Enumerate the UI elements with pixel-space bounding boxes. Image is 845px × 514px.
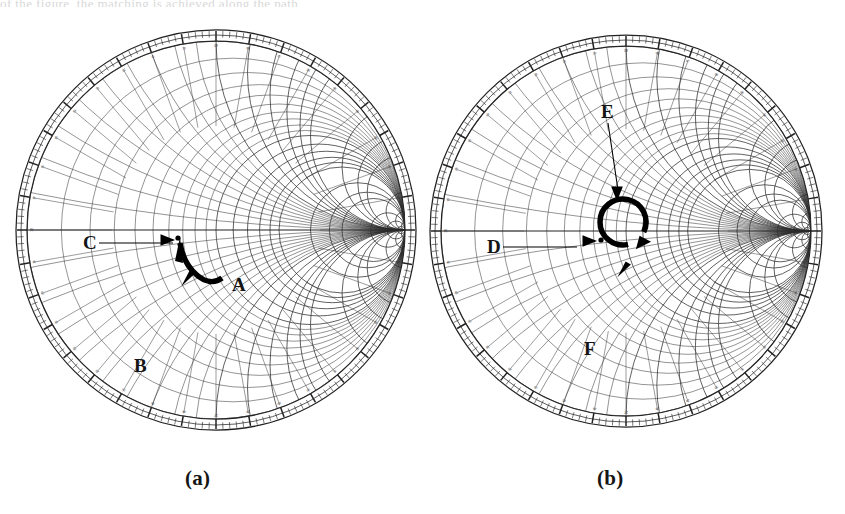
rim-tick-major	[800, 164, 809, 167]
rim-tick-minor	[553, 406, 555, 412]
rim-tick-major	[434, 197, 444, 199]
rim-tick-minor	[585, 40, 586, 46]
label-f: F	[584, 338, 596, 359]
radial-spoke	[447, 199, 526, 213]
radial-spoke	[594, 331, 608, 410]
reactance-arc	[0, 230, 420, 460]
rim-tick-minor	[599, 38, 600, 44]
rim-tick-minor	[579, 414, 581, 420]
radial-spoke	[509, 91, 561, 153]
rim-tick-minor	[27, 169, 33, 171]
label-c: C	[83, 232, 97, 253]
annotations: EDF	[487, 101, 651, 359]
rim-tick-minor	[678, 44, 680, 50]
rim-tick-minor	[168, 37, 170, 43]
rim-tick-minor	[665, 40, 666, 46]
rim-tick-minor	[394, 302, 400, 304]
rim-tick-minor	[606, 37, 607, 43]
rim-tick-minor	[25, 175, 31, 177]
rim-tick-minor	[807, 177, 813, 179]
smith-grid	[0, 0, 420, 460]
rim-tick-minor	[599, 418, 600, 424]
radial-spoke	[123, 69, 164, 140]
reactance-arc	[0, 230, 420, 460]
radial-spoke	[661, 60, 689, 136]
label-e: E	[601, 101, 614, 122]
rim-tick-minor	[585, 415, 586, 421]
rim-tick-minor	[566, 410, 568, 416]
rim-tick-major	[148, 408, 151, 417]
radial-spoke	[704, 296, 766, 348]
rim-tick-major	[249, 416, 251, 426]
reactance-arc	[195, 0, 420, 230]
rim-tick-minor	[809, 277, 815, 279]
reactance-arc	[0, 0, 420, 230]
reactance-arc	[719, 46, 831, 231]
radial-spoke	[314, 266, 391, 294]
rim-tick-minor	[807, 283, 813, 285]
rim-tick-minor	[256, 418, 257, 424]
rim-tick-minor	[579, 42, 581, 48]
rim-tick-minor	[439, 283, 445, 285]
rim-tick-minor	[195, 32, 196, 38]
label-a: A	[232, 274, 246, 295]
radial-spoke	[704, 114, 766, 166]
rim-tick-major	[434, 263, 444, 265]
rim-tick-minor	[188, 33, 189, 39]
radial-spoke	[644, 52, 658, 131]
rim-tick-minor	[805, 171, 811, 173]
radial-spoke	[296, 297, 359, 350]
rim-tick-minor	[288, 408, 290, 414]
radial-spoke	[234, 47, 248, 128]
radial-spoke	[468, 140, 538, 180]
rim-tick-minor	[399, 169, 405, 171]
radial-spoke	[722, 266, 798, 294]
rim-tick-major	[689, 48, 692, 57]
rim-tick-minor	[805, 289, 811, 291]
rim-tick-minor	[256, 35, 257, 41]
rim-tick-major	[658, 39, 660, 49]
rim-tick-major	[394, 295, 403, 298]
reactance-arc	[719, 231, 831, 416]
radial-spoke	[252, 328, 280, 405]
smith-chart-b-svg: 0001020304050607080910111213141516171819…	[410, 0, 830, 460]
rim-tick-major	[808, 197, 818, 199]
rim-tick-minor	[19, 257, 25, 258]
rim-tick-minor	[243, 33, 244, 39]
radial-spoke	[33, 198, 114, 212]
reactance-arc	[605, 0, 830, 231]
rim-tick-minor	[401, 283, 407, 285]
rim-tick-minor	[672, 414, 674, 420]
reactance-arc	[135, 0, 420, 230]
rim-tick-minor	[652, 38, 653, 44]
rim-tick-minor	[21, 189, 27, 190]
smith-chart-b: 0001020304050607080910111213141516171819…	[410, 0, 830, 460]
radial-spoke	[73, 110, 136, 163]
rim-tick-minor	[31, 155, 37, 157]
radial-spoke	[535, 319, 575, 389]
rim-tick-major	[148, 43, 151, 52]
rim-tick-major	[559, 405, 562, 414]
caption-a: (a)	[185, 466, 210, 491]
radial-spoke	[252, 55, 280, 132]
rim-tick-minor	[275, 41, 277, 47]
rim-tick-minor	[646, 37, 647, 43]
constant-swr-loop-head	[636, 236, 651, 249]
smith-chart-figure: of the figure, the matching is achieved …	[0, 0, 845, 514]
rim-tick-minor	[672, 42, 674, 48]
reactance-arc	[0, 230, 420, 460]
rim-tick-minor	[21, 270, 27, 271]
rim-tick-minor	[441, 171, 447, 173]
rim-tick-minor	[572, 412, 574, 418]
reactance-arc	[749, 108, 830, 231]
radial-spoke	[184, 332, 198, 413]
radial-spoke	[234, 332, 248, 413]
rim-tick-major	[689, 405, 692, 414]
rim-tick-minor	[19, 202, 25, 203]
reactance-arc	[749, 231, 830, 354]
radial-spoke	[33, 248, 114, 262]
rim-tick-minor	[437, 277, 443, 279]
radial-spoke	[722, 169, 798, 197]
rim-tick-minor	[269, 415, 271, 421]
reactance-arc	[605, 231, 830, 460]
